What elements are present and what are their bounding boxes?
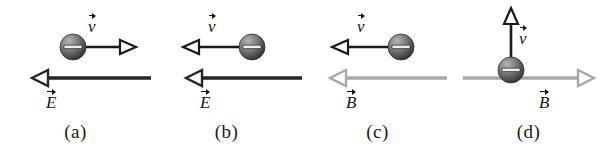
- vector-arrow-accent: [200, 88, 210, 95]
- field-symbol: E: [200, 94, 210, 111]
- velocity-symbol: v: [357, 18, 365, 35]
- magnetic-field-arrow: [463, 70, 594, 86]
- velocity-symbol: v: [88, 18, 96, 35]
- charged-particle: [60, 34, 86, 60]
- panel-label-b: (b): [151, 121, 302, 143]
- velocity-arrow: [183, 40, 240, 54]
- field-symbol: E: [46, 94, 56, 111]
- panel-d: v B (d): [453, 0, 604, 167]
- panel-c: v B (c): [302, 0, 453, 167]
- electric-field-arrow: [186, 70, 302, 86]
- vector-arrow-accent: [88, 12, 96, 19]
- vector-arrow-accent: [208, 12, 216, 19]
- velocity-symbol: v: [519, 30, 527, 47]
- physics-figure: v E (a): [0, 0, 604, 167]
- vector-arrow-accent: [357, 12, 365, 19]
- panel-a: v E (a): [0, 0, 151, 167]
- panel-label-d: (d): [453, 121, 604, 143]
- panel-label-c: (c): [302, 121, 453, 143]
- velocity-label-c: v: [357, 12, 365, 35]
- velocity-label-a: v: [88, 12, 96, 35]
- field-label-c: B: [346, 88, 356, 111]
- magnetic-field-arrow: [330, 70, 447, 86]
- panel-label-a: (a): [0, 121, 151, 143]
- electric-field-arrow: [32, 70, 151, 86]
- velocity-symbol: v: [208, 18, 216, 35]
- vector-arrow-accent: [346, 88, 356, 95]
- field-label-d: B: [539, 88, 549, 111]
- panel-b: v E (b): [151, 0, 302, 167]
- velocity-label-d: v: [519, 24, 527, 47]
- field-label-b: E: [200, 88, 210, 111]
- vector-arrow-accent: [519, 24, 527, 31]
- field-symbol: B: [539, 94, 549, 111]
- charged-particle: [388, 34, 414, 60]
- vector-arrow-accent: [46, 88, 56, 95]
- field-label-a: E: [46, 88, 56, 111]
- velocity-arrow: [504, 8, 518, 64]
- charged-particle: [239, 34, 265, 60]
- vector-arrow-accent: [539, 88, 549, 95]
- field-symbol: B: [346, 94, 356, 111]
- charged-particle: [498, 57, 524, 83]
- velocity-label-b: v: [208, 12, 216, 35]
- velocity-arrow: [332, 40, 389, 54]
